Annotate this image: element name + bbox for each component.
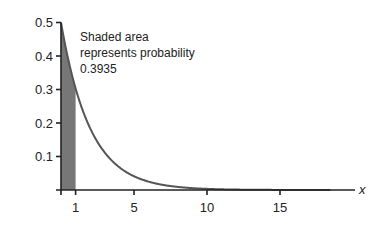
svg-text:0.5: 0.5 [35,15,53,30]
shaded-area [61,23,76,191]
svg-text:1: 1 [72,200,79,215]
svg-text:0.3: 0.3 [35,82,53,97]
x-axis-label: x [358,182,366,197]
x-axis-ticks: 151015 [72,190,287,215]
annotation-line-3: 0.3935 [80,62,117,76]
svg-text:0.4: 0.4 [35,49,53,64]
annotation-line-1: Shaded area [80,30,149,44]
svg-text:0.2: 0.2 [35,116,53,131]
exponential-density-chart: 0.10.20.30.40.5 151015 x Shaded area rep… [0,0,392,235]
svg-text:5: 5 [130,200,137,215]
svg-text:10: 10 [200,200,214,215]
svg-text:0.1: 0.1 [35,149,53,164]
y-axis-ticks: 0.10.20.30.40.5 [35,15,61,164]
annotation: Shaded area represents probability 0.393… [80,30,195,76]
annotation-line-2: represents probability [80,46,195,60]
svg-text:15: 15 [273,200,287,215]
